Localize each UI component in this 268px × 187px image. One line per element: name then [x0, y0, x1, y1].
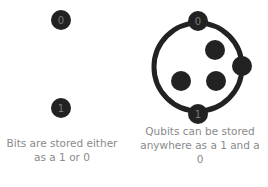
qubit-one-label: 1 [195, 109, 201, 120]
bit-one-label: 1 [58, 103, 64, 114]
qubit-state-dot [171, 71, 191, 91]
qubits-caption: Qubits can be stored anywhere as a 1 and… [136, 124, 264, 166]
qubit-diagram: 0 1 [154, 11, 252, 124]
bloch-sphere-ring [154, 23, 242, 111]
qubit-state-dot [206, 71, 226, 91]
qubit-state-dot [205, 40, 225, 60]
qubit-state-dot [232, 56, 252, 76]
bit-diagram: 0 1 [51, 10, 71, 118]
bits-caption: Bits are stored either as a 1 or 0 [0, 136, 124, 164]
qubit-zero-label: 0 [195, 16, 201, 27]
bit-zero-label: 0 [58, 15, 64, 26]
